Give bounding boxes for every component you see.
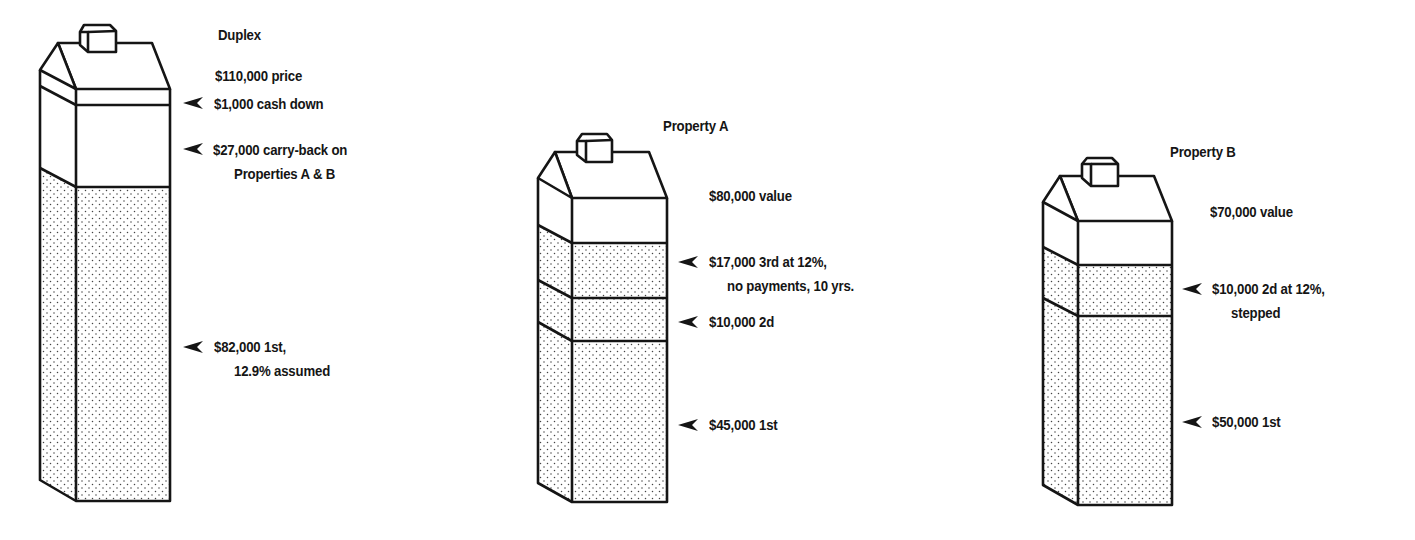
duplex-title: Duplex bbox=[218, 26, 261, 44]
duplex-first-mortgage-label-2: 12.9% assumed bbox=[234, 362, 330, 380]
duplex-carry-back-label-2: Properties A & B bbox=[234, 165, 335, 183]
arrow-pointer-icon bbox=[183, 341, 203, 353]
property-a-third-label-2: no payments, 10 yrs. bbox=[727, 277, 854, 295]
arrow-pointer-icon bbox=[678, 316, 698, 328]
arrow-pointer-icon bbox=[183, 143, 203, 155]
duplex-chimney bbox=[80, 25, 116, 52]
arrow-pointer-icon bbox=[1182, 283, 1202, 295]
property-a-building bbox=[538, 134, 667, 502]
illustration-canvas bbox=[0, 0, 1415, 540]
property-a-third-label: $17,000 3rd at 12%, bbox=[709, 253, 827, 271]
duplex-building bbox=[40, 25, 170, 501]
duplex-first-mortgage-side bbox=[40, 168, 76, 501]
property-a-first-label: $45,000 1st bbox=[709, 416, 778, 434]
property-b-second-label-2: stepped bbox=[1231, 304, 1280, 322]
arrow-pointer-icon bbox=[678, 419, 698, 431]
property-a-second-label: $10,000 2d bbox=[709, 313, 774, 331]
duplex-carry-back-label: $27,000 carry-back on bbox=[213, 141, 347, 159]
property-b-title: Property B bbox=[1170, 143, 1236, 161]
property-b-value-label: $70,000 value bbox=[1210, 203, 1293, 221]
property-a-value-label: $80,000 value bbox=[709, 187, 792, 205]
property-b-second-label: $10,000 2d at 12%, bbox=[1212, 280, 1325, 298]
duplex-cash-down-label: $1,000 cash down bbox=[214, 95, 323, 113]
arrow-pointer-icon bbox=[678, 256, 698, 268]
duplex-first-mortgage-front bbox=[76, 187, 170, 501]
property-a-title: Property A bbox=[663, 117, 728, 135]
arrow-pointer-icon bbox=[1182, 416, 1202, 428]
property-b-first-label: $50,000 1st bbox=[1212, 413, 1281, 431]
duplex-price-label: $110,000 price bbox=[215, 67, 302, 85]
property-b-building bbox=[1043, 158, 1172, 505]
property-b-chimney bbox=[1082, 158, 1118, 186]
property-a-chimney bbox=[577, 134, 612, 162]
arrow-pointer-icon bbox=[183, 97, 203, 109]
duplex-first-mortgage-label: $82,000 1st, bbox=[214, 338, 286, 356]
